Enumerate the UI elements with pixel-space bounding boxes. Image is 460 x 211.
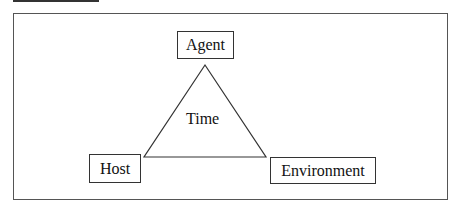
environment-node: Environment	[270, 157, 376, 184]
host-label: Host	[100, 160, 130, 178]
agent-node: Agent	[177, 31, 234, 59]
time-label: Time	[186, 110, 219, 128]
environment-label: Environment	[281, 162, 365, 180]
agent-label: Agent	[186, 36, 225, 54]
host-node: Host	[89, 154, 141, 183]
